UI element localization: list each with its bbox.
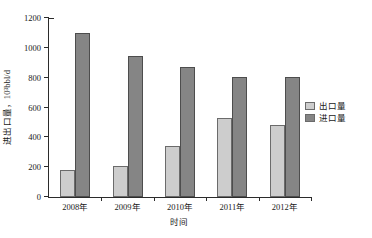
legend-item-import[interactable]: 进口量 (305, 114, 346, 123)
x-axis-category-label: 2011年 (220, 203, 246, 212)
y-axis-tick: 1200 (44, 17, 49, 18)
legend-label-import: 进口量 (319, 114, 346, 123)
y-axis-tick-label: 200 (28, 163, 41, 172)
legend-swatch-export-icon (305, 102, 315, 110)
x-axis-tick (206, 197, 207, 201)
y-axis-tick-label: 1200 (24, 14, 41, 23)
y-axis-tick-label: 800 (28, 73, 41, 82)
y-axis-tick-label: 600 (28, 103, 41, 112)
y-axis-tick: 600 (44, 107, 49, 108)
x-axis-tick (101, 197, 102, 201)
bar-export-2008年 (60, 170, 75, 197)
bar-export-2011年 (217, 118, 232, 197)
bar-import-2009年 (128, 56, 143, 197)
x-axis-category-label: 2010年 (167, 203, 193, 212)
x-axis-category-label: 2009年 (115, 203, 141, 212)
legend-item-export[interactable]: 出口量 (305, 102, 346, 111)
y-axis-tick: 400 (44, 136, 49, 137)
bar-import-2012年 (285, 77, 300, 197)
y-axis-top-stub (49, 18, 54, 19)
x-axis-category-label: 2012年 (272, 203, 298, 212)
y-axis-title: 进出口量，10³bbl/d (0, 18, 14, 197)
y-axis-tick: 1000 (44, 47, 49, 48)
bar-chart-figure: 进出口量，10³bbl/d 0200400600800100012002008年… (0, 0, 372, 238)
chart-legend: 出口量 进口量 (305, 102, 346, 122)
x-axis-tick (311, 197, 312, 201)
x-axis-tick (154, 197, 155, 201)
bar-export-2009年 (113, 166, 128, 197)
bar-import-2011年 (232, 77, 247, 197)
legend-swatch-import-icon (305, 114, 315, 122)
bar-export-2010年 (165, 146, 180, 197)
y-axis-tick-label: 400 (28, 133, 41, 142)
bar-import-2008年 (75, 33, 90, 197)
y-axis-tick: 800 (44, 77, 49, 78)
y-axis-tick-label: 1000 (24, 44, 41, 53)
y-axis-title-text: 进出口量，10³bbl/d (3, 70, 12, 145)
y-axis-tick: 200 (44, 166, 49, 167)
y-axis-tick: 0 (44, 196, 49, 197)
bar-export-2012年 (270, 125, 285, 197)
plot-area: 0200400600800100012002008年2009年2010年2011… (48, 18, 311, 198)
x-axis-tick (259, 197, 260, 201)
y-axis-tick-label: 0 (37, 193, 41, 202)
x-axis-title: 时间 (48, 218, 310, 227)
x-axis-category-label: 2008年 (62, 203, 88, 212)
legend-label-export: 出口量 (319, 102, 346, 111)
bar-import-2010年 (180, 67, 195, 197)
